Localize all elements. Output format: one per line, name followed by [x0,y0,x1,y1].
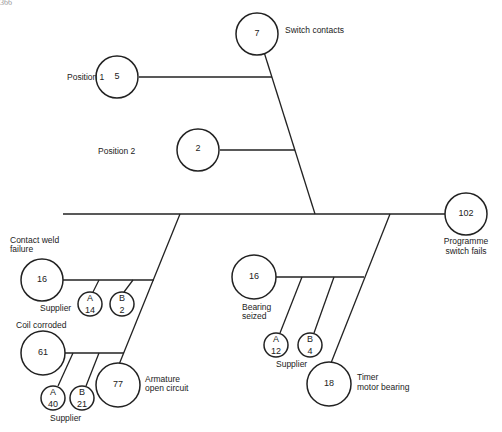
armature-label-2: open circuit [145,383,189,393]
bearing-seized-node: 16 Bearing seized A 12 B 4 Supplier [232,255,322,369]
armature-count: 77 [113,379,123,389]
bearing-supplier-label: Supplier [276,359,307,369]
supplier-b-count: 2 [119,305,124,315]
switch-contacts-label: Switch contacts [285,25,344,35]
bearing-seized-label-2: seized [242,311,267,321]
supplier-b-count: 4 [307,346,312,356]
bearing-supplier-b-link [314,277,334,333]
coil-corroded-count: 61 [38,347,48,357]
contact-weld-supplier-label: Supplier [40,303,71,313]
supplier-b-count: 21 [77,399,87,409]
page-number: 366 [0,0,12,7]
contact-weld-label-2: failure [10,244,33,254]
position-1-label: Position 1 [67,72,105,82]
contact-weld-count: 16 [37,274,47,284]
armature-node: 77 Armature open circuit [96,363,189,407]
supplier-b-letter: B [119,293,125,303]
root-count: 102 [458,208,473,218]
supplier-a-letter: A [87,293,93,303]
position-2-node: 2 Position 2 [98,129,219,171]
right-branch [331,214,390,363]
contact-weld-node: 16 Contact weld failure A 14 B 2 Supplie… [10,235,134,316]
bearing-seized-count: 16 [249,271,259,281]
position-1-node: 5 Position 1 [67,56,138,98]
timer-bearing-label-2: motor bearing [357,382,410,392]
fault-tree-diagram: 366 102 Programme switch fails 7 Switch … [0,0,502,432]
switch-contacts-branch [264,52,315,214]
supplier-a-letter: A [50,387,56,397]
root-label: Programme [444,236,489,246]
contact-weld-supplier-b-link [124,280,133,292]
root-node: 102 Programme switch fails [444,193,489,256]
timer-bearing-label: Timer [357,372,379,382]
bearing-supplier-a-link [280,277,302,333]
timer-bearing-node: 18 Timer motor bearing [307,362,410,406]
supplier-a-letter: A [273,334,279,344]
coil-supplier-label: Supplier [50,413,81,423]
supplier-a-count: 40 [48,399,58,409]
supplier-a-count: 14 [85,305,95,315]
position-1-count: 5 [114,71,119,81]
contact-weld-supplier-a-link [93,280,99,292]
timer-bearing-count: 18 [324,378,334,388]
coil-corroded-label: Coil corroded [16,320,67,330]
coil-corroded-node: 61 Coil corroded A 40 B 21 Supplier [16,320,94,423]
root-label-2: switch fails [445,246,486,256]
position-2-label: Position 2 [98,146,136,156]
supplier-b-letter: B [79,387,85,397]
supplier-a-count: 12 [271,346,281,356]
supplier-b-letter: B [307,334,313,344]
switch-contacts-count: 7 [254,28,259,38]
switch-contacts-node: 7 Switch contacts [236,13,344,55]
left-branch [118,214,180,367]
position-2-count: 2 [195,143,200,153]
